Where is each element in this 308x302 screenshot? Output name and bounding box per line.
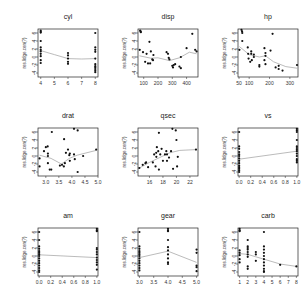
data-point xyxy=(238,145,240,147)
data-point xyxy=(138,248,140,250)
x-tick-label: 400 xyxy=(182,80,191,86)
x-tick-label: 0.6 xyxy=(270,179,277,185)
data-point xyxy=(38,260,40,262)
y-tick-label: -2 xyxy=(231,262,237,267)
data-point xyxy=(40,50,42,52)
data-point xyxy=(138,267,140,269)
data-point xyxy=(165,150,167,152)
data-point xyxy=(158,132,160,134)
data-point xyxy=(149,62,151,64)
x-tick-label: 0.8 xyxy=(82,279,89,285)
y-tick-label: 2 xyxy=(231,146,237,149)
data-point xyxy=(177,156,179,158)
y-tick-label: 6 xyxy=(231,230,237,233)
smooth-line xyxy=(139,150,196,168)
data-point xyxy=(138,262,140,264)
y-tick-label: -2 xyxy=(31,262,37,267)
data-point xyxy=(278,68,280,70)
data-point xyxy=(166,153,168,155)
data-point xyxy=(255,253,257,255)
x-tick-label: 4 xyxy=(263,279,266,285)
y-tick-label: 6 xyxy=(31,31,37,34)
y-tick-label: -4 xyxy=(131,71,137,76)
data-point xyxy=(40,40,42,42)
plot-frame xyxy=(138,228,198,276)
x-tick-label: 100 xyxy=(140,80,149,86)
data-point xyxy=(145,161,147,163)
data-point xyxy=(195,252,197,254)
x-tick-label: 3.0 xyxy=(136,279,143,285)
smooth-line xyxy=(39,255,97,258)
y-tick-label: -4 xyxy=(31,71,37,76)
y-tick-label: 0 xyxy=(131,254,137,257)
x-tick-label: 3.0 xyxy=(42,179,49,185)
data-point xyxy=(40,62,42,64)
data-point xyxy=(94,46,96,48)
data-point xyxy=(172,168,174,170)
data-point xyxy=(94,32,96,34)
data-point xyxy=(47,145,49,147)
x-tick-label: 6 xyxy=(67,80,70,86)
data-point xyxy=(159,153,161,155)
data-point xyxy=(50,169,52,171)
plot-frame xyxy=(138,128,198,176)
data-point xyxy=(82,155,84,157)
data-point xyxy=(167,53,169,55)
data-point xyxy=(96,269,98,271)
data-point xyxy=(238,148,240,150)
data-point xyxy=(250,50,252,52)
panel-gear: gear-4-20246res.lidge.cen(?)3.03.54.04.5… xyxy=(122,212,200,285)
y-tick-label: 0 xyxy=(231,254,237,257)
data-point xyxy=(94,58,96,60)
data-point xyxy=(38,257,40,259)
y-tick-label: 0 xyxy=(231,55,237,58)
data-point xyxy=(38,165,40,167)
x-tick-label: 3.5 xyxy=(55,179,62,185)
data-point xyxy=(47,153,49,155)
data-point xyxy=(145,53,147,55)
data-point xyxy=(96,253,98,255)
data-point xyxy=(247,265,249,267)
data-point xyxy=(247,46,249,48)
data-point xyxy=(40,55,42,57)
y-tick-label: 4 xyxy=(31,238,37,241)
x-tick-label: 16 xyxy=(147,179,153,185)
data-point xyxy=(38,157,40,159)
y-tick-label: -4 xyxy=(231,170,237,175)
y-tick-label: -2 xyxy=(131,162,137,167)
data-point xyxy=(238,157,240,159)
data-point xyxy=(296,131,298,133)
smooth-line xyxy=(40,150,97,164)
data-point xyxy=(269,50,271,52)
x-tick-label: 100 xyxy=(245,80,254,86)
x-tick-label: 3 xyxy=(254,279,257,285)
x-tick-label: 4.0 xyxy=(68,179,75,185)
data-point xyxy=(67,52,69,54)
data-point xyxy=(77,129,79,131)
y-tick-label: -4 xyxy=(131,170,137,175)
data-point xyxy=(69,153,71,155)
x-tick-label: 20 xyxy=(174,179,180,185)
data-point xyxy=(157,150,159,152)
panel-title: gear xyxy=(161,212,176,220)
x-tick-label: 300 xyxy=(286,80,295,86)
data-point xyxy=(249,61,251,63)
data-point xyxy=(152,161,154,163)
data-point xyxy=(171,128,173,130)
panel-title: carb xyxy=(261,212,275,219)
y-tick-label: -2 xyxy=(231,63,237,68)
data-point xyxy=(239,258,241,260)
y-tick-label: 0 xyxy=(131,154,137,157)
panel-vs: vs-4-20246res.lidge.cen(?)0.00.20.40.60.… xyxy=(222,112,301,185)
data-point xyxy=(195,149,197,151)
data-point xyxy=(59,165,61,167)
panel-hp: hp-4-20246res.lidge.cen(?)50100200300 xyxy=(222,13,298,86)
x-tick-label: 18 xyxy=(160,179,166,185)
data-point xyxy=(263,47,265,49)
data-point xyxy=(239,261,241,263)
data-point xyxy=(67,63,69,65)
data-point xyxy=(138,231,140,233)
data-point xyxy=(67,61,69,63)
data-point xyxy=(150,50,152,52)
data-point xyxy=(239,252,241,254)
